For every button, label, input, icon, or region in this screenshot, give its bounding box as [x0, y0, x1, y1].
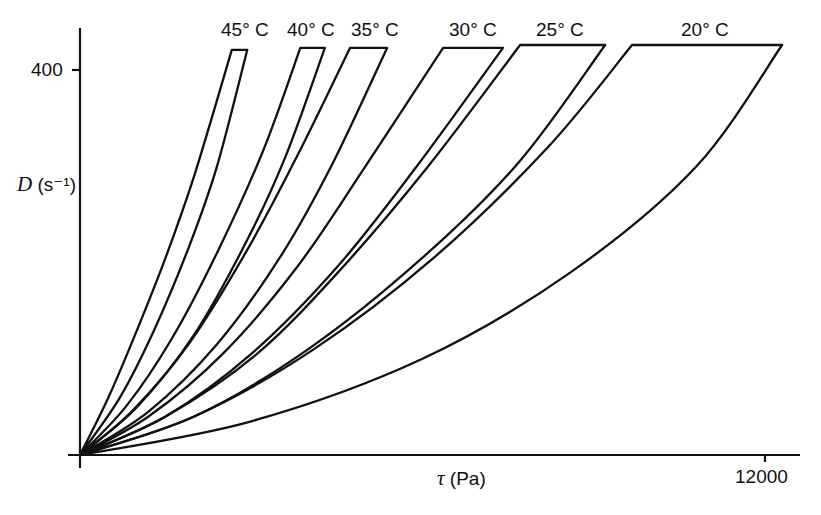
loop-35c	[80, 48, 387, 455]
loop-45c	[80, 50, 247, 455]
y-tick-label-400: 400	[31, 59, 63, 81]
y-axis-title: D (s⁻¹)	[17, 172, 76, 197]
label-40c: 40° C	[287, 19, 335, 41]
hysteresis-loops	[80, 45, 782, 455]
chart-plot-area	[0, 0, 821, 515]
y-axis-symbol: D	[17, 172, 32, 196]
label-35c: 35° C	[351, 19, 399, 41]
x-axis-symbol: τ	[437, 466, 445, 490]
label-30c: 30° C	[449, 19, 497, 41]
label-20c: 20° C	[681, 19, 729, 41]
y-axis-unit: (s⁻¹)	[32, 174, 76, 195]
x-axis-title: τ (Pa)	[437, 466, 486, 491]
loop-25c	[80, 45, 605, 455]
label-25c: 25° C	[536, 19, 584, 41]
x-axis-unit: (Pa)	[445, 468, 486, 489]
label-45c: 45° C	[221, 19, 269, 41]
x-tick-label-12000: 12000	[735, 466, 788, 488]
